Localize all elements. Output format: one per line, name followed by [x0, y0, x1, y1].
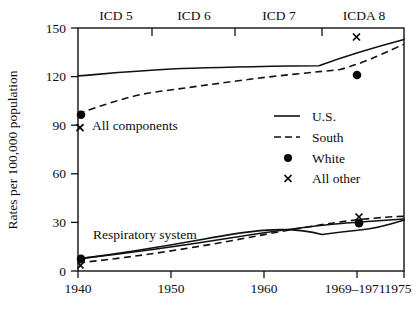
- legend-label-south: South: [312, 130, 344, 145]
- y-tick-label-60: 60: [53, 166, 67, 181]
- legend-swatch-white: [284, 154, 292, 162]
- era-separator-ticks: [152, 28, 322, 36]
- marker-white-1940-respiratory: [77, 255, 86, 264]
- era-label-icd7: ICD 7: [262, 8, 296, 23]
- chart-figure: 0 30 60 90 120 150 Rates per 100,000 pop…: [0, 0, 417, 310]
- x-axis-ticks: [78, 271, 404, 278]
- y-tick-label-0: 0: [59, 264, 66, 279]
- y-tick-label-120: 120: [46, 69, 67, 84]
- line-us-all-components: [78, 40, 404, 77]
- annotation-respiratory-system: Respiratory system: [93, 227, 197, 242]
- y-tick-label-90: 90: [53, 118, 67, 133]
- y-axis-ticks: [71, 28, 78, 271]
- era-label-icd6: ICD 6: [177, 8, 211, 23]
- legend-swatch-all-other: [285, 175, 292, 182]
- x-axis-tick-labels: 1940 1950 1960 1969–1971 1975: [65, 281, 412, 296]
- era-labels: ICD 5 ICD 6 ICD 7 ICDA 8: [99, 8, 385, 23]
- marker-white-1940-all-components: [77, 110, 86, 119]
- legend-label-white: White: [312, 151, 345, 166]
- y-axis-tick-labels: 0 30 60 90 120 150: [46, 21, 67, 279]
- era-label-icda8: ICDA 8: [343, 8, 386, 23]
- y-tick-label-30: 30: [53, 215, 67, 230]
- legend: U.S. South White All other: [274, 109, 361, 186]
- x-tick-label-1960: 1960: [251, 281, 278, 296]
- annotation-all-components: All components: [92, 118, 178, 133]
- x-tick-label-1975: 1975: [385, 281, 412, 296]
- x-tick-label-1940: 1940: [65, 281, 92, 296]
- line-south-all-components: [78, 44, 404, 114]
- y-tick-label-150: 150: [46, 21, 67, 36]
- x-tick-label-1950: 1950: [158, 281, 185, 296]
- chart-svg: 0 30 60 90 120 150 Rates per 100,000 pop…: [0, 0, 417, 310]
- x-tick-label-1969-1971: 1969–1971: [325, 281, 386, 296]
- legend-label-us: U.S.: [312, 109, 336, 124]
- era-label-icd5: ICD 5: [99, 8, 133, 23]
- y-axis-title: Rates per 100,000 population: [5, 70, 20, 229]
- legend-label-all-other: All other: [312, 171, 361, 186]
- marker-white-1970-all-components: [353, 71, 362, 80]
- marker-allother-1970-all-components: [353, 34, 360, 41]
